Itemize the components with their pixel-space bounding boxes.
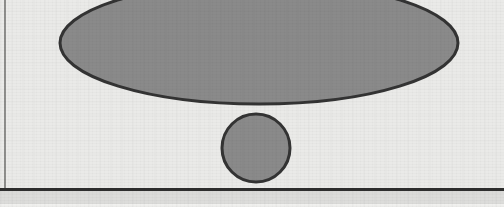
bottom-horizontal-rule bbox=[0, 188, 504, 191]
exclamation-mark-figure bbox=[0, 0, 504, 207]
scanned-page bbox=[0, 0, 504, 207]
circle-dot-shape bbox=[222, 114, 290, 182]
ellipse-stem-shape bbox=[60, 0, 458, 104]
left-margin-rule bbox=[4, 0, 6, 189]
